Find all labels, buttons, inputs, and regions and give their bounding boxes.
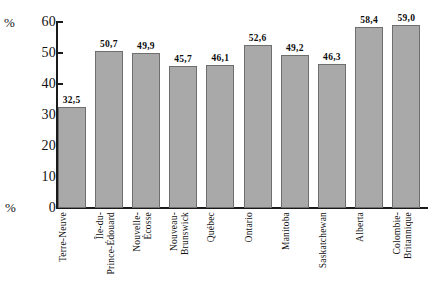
bar[interactable] — [132, 53, 160, 208]
x-axis-category-label-line: Québec — [206, 212, 217, 242]
y-axis-tick-label: 50 — [26, 46, 56, 60]
bar-slot: 49,2 — [281, 22, 309, 208]
plot-area: 32,550,749,945,746,152,649,246,358,459,0 — [56, 22, 428, 208]
x-axis-category-label: Alberta — [355, 210, 393, 297]
bar[interactable] — [318, 64, 346, 208]
x-axis-category-label-line: Saskatchewan — [318, 212, 329, 268]
bar-value-label: 45,7 — [174, 54, 192, 64]
x-axis-category-label: Colombie-Britannique — [392, 210, 430, 297]
bar[interactable] — [58, 107, 86, 208]
bar-value-label: 32,5 — [63, 95, 81, 105]
x-axis-category-label-line: Terre-Neuve — [58, 212, 69, 262]
bar-value-label: 46,3 — [323, 52, 341, 62]
x-axis-category-label: Québec — [206, 210, 244, 297]
bar-slot: 45,7 — [169, 22, 197, 208]
bar-chart: % % 6050403020100 32,550,749,945,746,152… — [0, 0, 438, 297]
bar[interactable] — [392, 25, 420, 208]
bar-value-label: 49,2 — [286, 43, 304, 53]
bar-slot: 32,5 — [58, 22, 86, 208]
x-axis-category-label-line: Alberta — [355, 212, 366, 242]
x-axis-category-label-line: Colombie- — [392, 212, 403, 254]
bar-value-label: 50,7 — [100, 39, 118, 49]
bar-slot: 52,6 — [244, 22, 272, 208]
bar[interactable] — [244, 45, 272, 208]
bar-value-label: 52,6 — [249, 33, 267, 43]
x-axis-category-label: Île-du-Prince-Édouard — [95, 210, 133, 297]
y-axis-tick-label: 30 — [26, 108, 56, 122]
bar-slot: 46,3 — [318, 22, 346, 208]
x-axis-category-label: Terre-Neuve — [58, 210, 96, 297]
bar[interactable] — [281, 55, 309, 208]
y-axis-tick-label: 0 — [26, 201, 56, 215]
x-axis-category-label: Ontario — [244, 210, 282, 297]
bar-slot: 58,4 — [355, 22, 383, 208]
x-axis-category-label-line: Île-du- — [95, 212, 106, 239]
bar[interactable] — [355, 27, 383, 208]
x-axis-category-label-line: Prince-Édouard — [106, 212, 117, 274]
bar-slot: 50,7 — [95, 22, 123, 208]
x-axis-category-label-line: Manitoba — [281, 212, 292, 250]
bar[interactable] — [206, 65, 234, 208]
y-axis-tick-label: 40 — [26, 77, 56, 91]
y-axis-tick-label: 10 — [26, 170, 56, 184]
bar[interactable] — [95, 51, 123, 208]
bar-slot: 46,1 — [206, 22, 234, 208]
x-axis-category-label: Saskatchewan — [318, 210, 356, 297]
bar-slot: 49,9 — [132, 22, 160, 208]
x-axis-category-label: Nouveau-Brunswick — [169, 210, 207, 297]
bar-slot: 59,0 — [392, 22, 420, 208]
x-axis-category-label-line: Nouveau- — [169, 212, 180, 251]
x-axis-category-labels: Terre-NeuveÎle-du-Prince-ÉdouardNouvelle… — [56, 210, 428, 297]
bar-value-label: 59,0 — [397, 13, 415, 23]
x-axis-category-label-line: Ontario — [244, 212, 255, 242]
x-axis-category-label: Manitoba — [281, 210, 319, 297]
x-axis-category-label: Nouvelle-Écosse — [132, 210, 170, 297]
bar-value-label: 49,9 — [137, 41, 155, 51]
x-axis-category-label-line: Brunswick — [180, 212, 191, 255]
bar-value-label: 58,4 — [360, 15, 378, 25]
x-axis-category-label-line: Écosse — [143, 212, 154, 240]
bar[interactable] — [169, 66, 197, 208]
bar-value-label: 46,1 — [211, 53, 229, 63]
y-axis-tick-label: 20 — [26, 139, 56, 153]
x-axis-category-label-line: Nouvelle- — [132, 212, 143, 252]
x-axis-category-label-line: Britannique — [403, 212, 414, 259]
y-axis-tick-label: 60 — [26, 15, 56, 29]
